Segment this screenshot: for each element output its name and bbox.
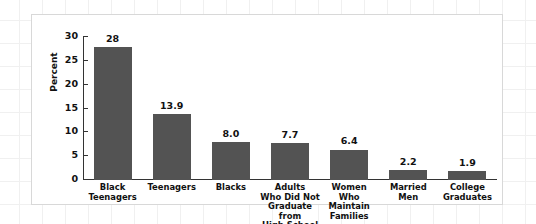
y-tick-text: 15 <box>56 103 78 113</box>
bar-7 <box>448 171 486 180</box>
category-label-6: Married Men <box>377 183 440 202</box>
category-label-1: Black Teenagers <box>81 183 144 202</box>
y-axis-line <box>83 36 84 180</box>
category-label-7: College Graduates <box>436 183 499 202</box>
bar-4 <box>271 143 309 180</box>
y-tick-text: 5 <box>56 150 78 160</box>
bar-value-label-6: 2.2 <box>378 156 438 167</box>
page-background: Percent 051015202530 2813.98.07.76.42.21… <box>0 0 536 224</box>
bar-value-label-3: 8.0 <box>201 128 261 139</box>
category-label-4: Adults Who Did Not Graduate from High Sc… <box>258 183 321 224</box>
category-label-2: Teenagers <box>140 183 203 193</box>
bar-value-label-2: 13.9 <box>142 100 202 111</box>
y-tick-text: 10 <box>56 126 78 136</box>
category-label-3: Blacks <box>199 183 262 193</box>
bar-2 <box>153 114 191 180</box>
bar-value-label-4: 7.7 <box>260 129 320 140</box>
bar-value-label-7: 1.9 <box>437 157 497 168</box>
chart-card: Percent 051015202530 2813.98.07.76.42.21… <box>31 14 503 205</box>
y-tick-label-0: 0 <box>52 174 78 184</box>
y-tick-text: 0 <box>56 174 78 184</box>
bar-1 <box>94 47 132 180</box>
y-axis-title: Percent <box>49 32 59 112</box>
y-tick-text: 20 <box>56 79 78 89</box>
y-tick-label-10: 10 <box>52 126 78 136</box>
y-tick-text: 25 <box>56 55 78 65</box>
y-tick-label-25: 25 <box>52 55 78 65</box>
bar-value-label-5: 6.4 <box>319 135 379 146</box>
category-label-5: Women Who Maintain Families <box>318 183 381 221</box>
y-tick-label-30: 30 <box>52 31 78 41</box>
bar-chart-plot: Percent 051015202530 2813.98.07.76.42.21… <box>32 15 504 206</box>
y-tick-label-15: 15 <box>52 103 78 113</box>
y-tick-text: 30 <box>56 31 78 41</box>
bar-value-label-1: 28 <box>83 33 143 44</box>
y-tick-label-5: 5 <box>52 150 78 160</box>
y-tick-label-20: 20 <box>52 79 78 89</box>
bar-6 <box>389 170 427 180</box>
bar-3 <box>212 142 250 180</box>
bar-5 <box>330 150 368 181</box>
